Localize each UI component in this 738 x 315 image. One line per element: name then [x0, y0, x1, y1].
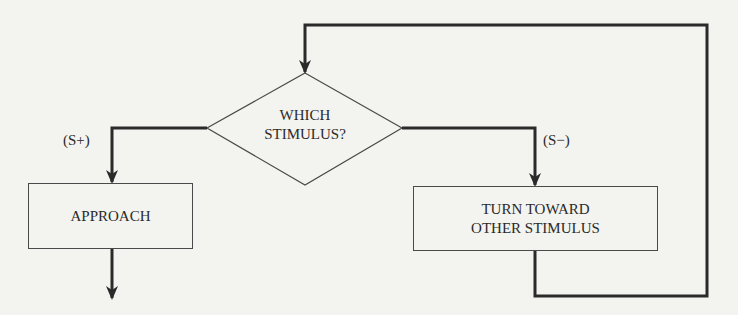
decision-line-2: STIMULUS? [245, 125, 365, 144]
turn-label-line-2: OTHER STIMULUS [471, 219, 600, 238]
decision-label: WHICH STIMULUS? [245, 106, 365, 144]
flowchart-canvas: WHICH STIMULUS? (S+) (S−) APPROACH TURN … [0, 0, 738, 315]
branch-label-s-plus: (S+) [63, 131, 90, 150]
branch-label-s-minus: (S−) [543, 131, 570, 150]
connector-s-minus [402, 128, 535, 185]
connector-layer [0, 0, 738, 315]
connector-loop-back [305, 25, 707, 296]
turn-toward-box: TURN TOWARD OTHER STIMULUS [413, 186, 658, 251]
connector-s-plus [112, 128, 207, 182]
turn-label-line-1: TURN TOWARD [481, 200, 589, 219]
decision-line-1: WHICH [245, 106, 365, 125]
approach-label: APPROACH [70, 207, 150, 226]
approach-box: APPROACH [28, 183, 193, 249]
